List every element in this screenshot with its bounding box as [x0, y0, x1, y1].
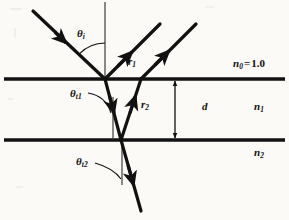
refractive-index-label-n2: n2 [254, 147, 264, 160]
angle-label-theta-t2: θt2 [76, 156, 88, 169]
refractive-index-label-n1: n1 [254, 101, 264, 114]
internal-ray-up [121, 79, 141, 140]
theta-i-arc [80, 43, 105, 54]
ray-label-r2: r2 [141, 99, 149, 112]
reflected-ray-r1 [105, 24, 160, 79]
refractive-index-label-n0: n0=1.0 [233, 58, 265, 71]
transmitted-ray [121, 140, 141, 211]
angle-label-theta-t1: θt1 [70, 88, 82, 101]
theta-t1-arc [88, 93, 111, 113]
thin-film-ray-diagram: θi θt1 θt2 r1 r2 n0=1.0 n1 n2 d [0, 0, 289, 220]
angle-label-theta-i: θi [77, 28, 85, 41]
ray-label-r1: r1 [128, 56, 136, 69]
reflected-ray-r2-emergent [141, 24, 196, 79]
theta-t2-arc [95, 163, 121, 179]
thickness-label-d: d [202, 101, 208, 112]
